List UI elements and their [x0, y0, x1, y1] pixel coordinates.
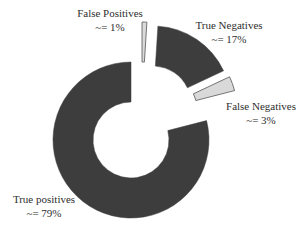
- slice-value-false-negatives: ~= 3%: [246, 114, 276, 126]
- slice-false-positives: [142, 22, 147, 62]
- slice-label-false-positives: False Positives: [77, 7, 143, 19]
- slice-label-true-negatives: True Negatives: [195, 19, 262, 31]
- slice-value-true-negatives: ~= 17%: [211, 33, 246, 45]
- slice-true-positives: [53, 62, 209, 218]
- slice-label-false-negatives: False Negatives: [226, 100, 296, 112]
- slice-label-true-positives: True positives: [13, 193, 75, 205]
- slice-value-true-positives: ~= 79%: [26, 207, 61, 219]
- chart-slices: [53, 22, 235, 218]
- slice-value-false-positives: ~= 1%: [95, 21, 125, 33]
- donut-chart: False Positives ~= 1% True Negatives ~= …: [0, 0, 308, 232]
